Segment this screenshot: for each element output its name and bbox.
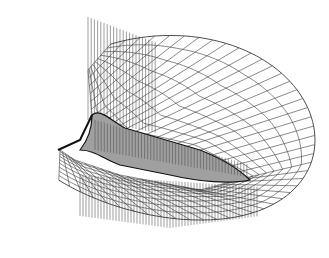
shuttle-body <box>58 113 250 182</box>
grid-mesh-svg <box>0 0 329 258</box>
mesh-diagram <box>0 0 329 258</box>
